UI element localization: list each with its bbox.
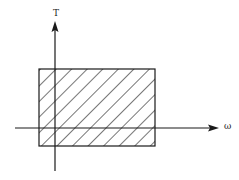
vertical-axis-label: T: [53, 8, 59, 18]
horizontal-axis-label: ω: [224, 121, 231, 131]
diagram-canvas: [0, 0, 239, 180]
hatched-region: [39, 69, 155, 146]
